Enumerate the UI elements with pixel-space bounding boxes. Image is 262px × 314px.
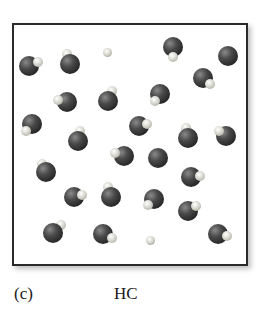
hydrogen-atom <box>107 233 117 243</box>
hydrogen-atom <box>195 171 205 181</box>
chlorine-atom <box>148 148 168 168</box>
hydrogen-atom <box>222 231 232 241</box>
hydrogen-atom <box>21 126 31 136</box>
hydrogen-atom-free <box>146 236 155 245</box>
hydrogen-atom <box>53 95 63 105</box>
chlorine-atom <box>43 223 63 243</box>
hydrogen-atom <box>150 96 160 106</box>
hydrogen-atom <box>143 200 153 210</box>
hydrogen-atom-free <box>103 48 112 57</box>
chlorine-atom <box>101 187 121 207</box>
hydrogen-atom <box>110 148 120 158</box>
hydrogen-atom <box>33 57 43 67</box>
chlorine-atom <box>178 128 198 148</box>
chlorine-atom <box>68 131 88 151</box>
caption-label: HC <box>114 284 138 304</box>
chlorine-atom <box>36 162 56 182</box>
chlorine-atom <box>60 54 80 74</box>
panel-label: (c) <box>14 284 33 304</box>
hydrogen-atom <box>168 52 178 62</box>
hydrogen-atom <box>214 126 224 136</box>
hydrogen-atom <box>142 119 152 129</box>
chlorine-atom <box>98 91 118 111</box>
hydrogen-atom <box>77 190 87 200</box>
hydrogen-atom <box>191 201 201 211</box>
hydrogen-atom <box>205 79 215 89</box>
chlorine-atom <box>218 46 238 66</box>
